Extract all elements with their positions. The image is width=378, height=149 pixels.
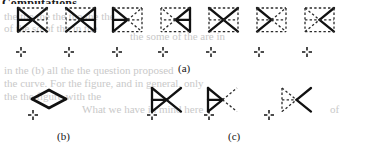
solid-up-left-diag-dn [209, 8, 224, 20]
solid-rhombus-edge [32, 99, 49, 108]
label-c: (c) [228, 130, 240, 142]
dashed-up-left-diag-dn [282, 88, 297, 100]
solid-lo-left-diag-up [208, 100, 223, 112]
solid-up-right-diag-up [320, 8, 335, 20]
solid-rhombus-edge [32, 90, 49, 99]
crosshair-a2 [64, 47, 74, 57]
solid-lo-right-diag-dn [167, 100, 182, 112]
solid-up-right-diag-up [167, 88, 182, 100]
geometry-layer [0, 0, 378, 149]
solid-up-left-diag-dn [257, 8, 272, 20]
solid-lo-left-diag-up [152, 100, 167, 112]
crosshair-b1 [28, 110, 38, 120]
crosshair-a5 [206, 47, 216, 57]
panel-c2 [208, 88, 237, 112]
panel-a6 [257, 8, 286, 32]
panel-c3 [282, 88, 311, 112]
solid-lo-left-diag-up [18, 20, 33, 32]
dashed-lo-right-diag-dn [161, 20, 176, 32]
dashed-up-right-diag-up [272, 8, 287, 20]
crosshair-a6 [254, 47, 264, 57]
solid-up-left-diag-dn [152, 88, 167, 100]
crosshair-a1 [16, 47, 26, 57]
solid-lo-right-diag-dn [33, 20, 48, 32]
solid-lo-right-diag-dn [320, 20, 335, 32]
solid-lo-left-diag-up [209, 20, 224, 32]
crosshair-a7 [302, 47, 312, 57]
crosshair-a3 [112, 47, 122, 57]
panel-c1 [152, 88, 181, 112]
dashed-up-right-diag-up [161, 8, 176, 20]
figure-canvas: the the the the the the theof the so of … [0, 0, 378, 149]
dashed-lo-right-diag-dn [128, 20, 143, 32]
solid-lo-right-diag-dn [66, 20, 81, 32]
panel-a7 [305, 8, 334, 32]
solid-lo-left-diag-up [176, 20, 191, 32]
crosshair-c1 [147, 110, 157, 120]
dashed-lo-left-diag-up [282, 100, 297, 112]
solid-up-right-diag-up [66, 8, 81, 20]
dashed-lo-left-diag-up [305, 20, 320, 32]
solid-up-left-diag-dn [176, 8, 191, 20]
label-b: (b) [57, 130, 70, 142]
solid-up-right-diag-up [33, 8, 48, 20]
solid-up-right-diag-up [224, 8, 239, 20]
solid-lo-right-diag-dn [297, 100, 312, 112]
crosshair-c3 [264, 110, 274, 120]
panel-a3 [113, 8, 142, 32]
solid-up-right-diag-up [297, 88, 312, 100]
solid-lo-left-diag-up [113, 20, 128, 32]
panel-a2 [66, 8, 95, 32]
solid-rhombus-edge [49, 90, 66, 99]
solid-lo-left-diag-up [257, 20, 272, 32]
dashed-up-right-diag-up [223, 88, 238, 100]
solid-up-left-diag-dn [81, 8, 96, 20]
solid-up-left-diag-dn [113, 8, 128, 20]
crosshair-c2 [204, 110, 214, 120]
panel-b1 [32, 90, 66, 108]
dashed-up-right-diag-up [128, 8, 143, 20]
solid-lo-left-diag-up [81, 20, 96, 32]
solid-lo-right-diag-dn [224, 20, 239, 32]
dashed-lo-right-diag-dn [223, 100, 238, 112]
dashed-lo-right-diag-dn [272, 20, 287, 32]
solid-up-left-diag-dn [208, 88, 223, 100]
solid-rhombus-edge [49, 99, 66, 108]
crosshair-a4 [158, 47, 168, 57]
solid-up-left-diag-dn [18, 8, 33, 20]
dashed-up-left-diag-dn [305, 8, 320, 20]
panel-a4 [161, 8, 190, 32]
panel-a5 [209, 8, 238, 32]
panel-a1 [18, 8, 47, 32]
label-a: (a) [178, 62, 190, 74]
